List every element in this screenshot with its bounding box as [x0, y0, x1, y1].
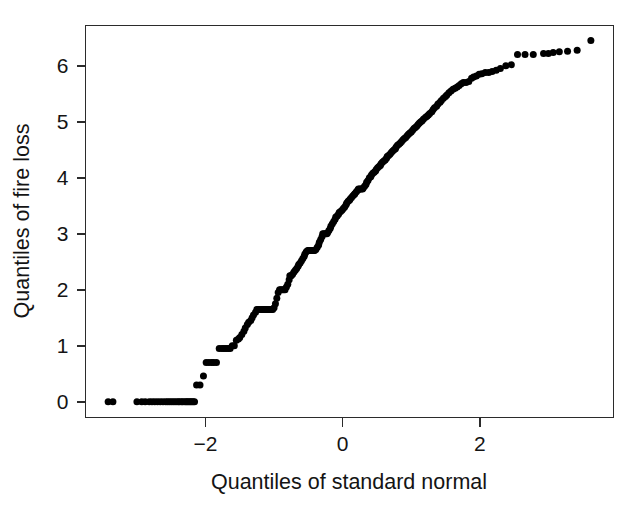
plot-canvas: −202 0123456 Quantiles of standard norma…	[0, 0, 643, 509]
data-point	[556, 48, 563, 55]
data-point	[508, 61, 515, 68]
x-tick-label: 0	[337, 432, 349, 455]
x-axis-ticks: −202	[194, 418, 486, 455]
y-tick-label: 0	[57, 390, 69, 413]
data-point	[109, 398, 116, 405]
data-point-series	[105, 37, 595, 405]
qq-plot-figure: −202 0123456 Quantiles of standard norma…	[0, 0, 643, 509]
y-tick-label: 2	[57, 278, 69, 301]
data-point	[213, 359, 220, 366]
y-tick-label: 4	[57, 166, 69, 189]
data-point	[530, 51, 537, 58]
y-axis-title: Quantiles of fire loss	[10, 124, 34, 319]
data-point	[522, 51, 529, 58]
data-point	[514, 51, 521, 58]
y-axis-ticks: 0123456	[57, 54, 86, 413]
y-tick-label: 5	[57, 110, 69, 133]
y-tick-label: 6	[57, 54, 69, 77]
data-point	[191, 398, 198, 405]
y-tick-label: 3	[57, 222, 69, 245]
data-point	[574, 47, 581, 54]
data-point	[587, 37, 594, 44]
x-tick-label: 2	[474, 432, 486, 455]
data-point	[564, 48, 571, 55]
x-axis-title: Quantiles of standard normal	[211, 470, 487, 494]
data-point	[550, 49, 557, 56]
data-point	[200, 373, 207, 380]
data-point	[197, 382, 204, 389]
plot-frame-box	[86, 26, 614, 418]
x-tick-label: −2	[194, 432, 218, 455]
y-tick-label: 1	[57, 334, 69, 357]
